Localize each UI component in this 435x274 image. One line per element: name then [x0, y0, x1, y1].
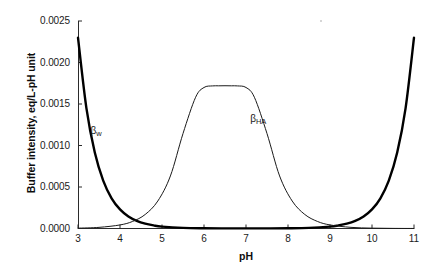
x-tick-label-8: 8 — [278, 233, 298, 244]
x-tick-label-5: 5 — [152, 233, 172, 244]
y-tick-label-0.0000: 0.0000 — [18, 223, 70, 234]
series-label-subscript: HA — [256, 117, 266, 126]
x-tick-label-10: 10 — [362, 233, 382, 244]
x-tick-label-9: 9 — [320, 233, 340, 244]
x-tick-label-11: 11 — [404, 233, 424, 244]
x-tick-label-3: 3 — [68, 233, 88, 244]
x-axis-title: pH — [196, 250, 296, 262]
series-line-beta-w — [78, 38, 414, 229]
series-label-βw: βw — [91, 125, 102, 136]
series-label-subscript: w — [96, 129, 101, 138]
x-tick-label-4: 4 — [110, 233, 130, 244]
series-label-βHA: βHA — [250, 113, 266, 124]
buffer-intensity-chart: 0.00000.00050.00100.00150.00200.0025 345… — [0, 0, 435, 274]
y-axis-title: Buffer intensity, eq/L-pH unit — [25, 33, 37, 213]
x-tick-label-7: 7 — [236, 233, 256, 244]
axis-lines — [78, 21, 414, 229]
series-line-beta-ha — [78, 86, 414, 229]
y-tick-label-0.0025: 0.0025 — [18, 15, 70, 26]
x-tick-label-6: 6 — [194, 233, 214, 244]
